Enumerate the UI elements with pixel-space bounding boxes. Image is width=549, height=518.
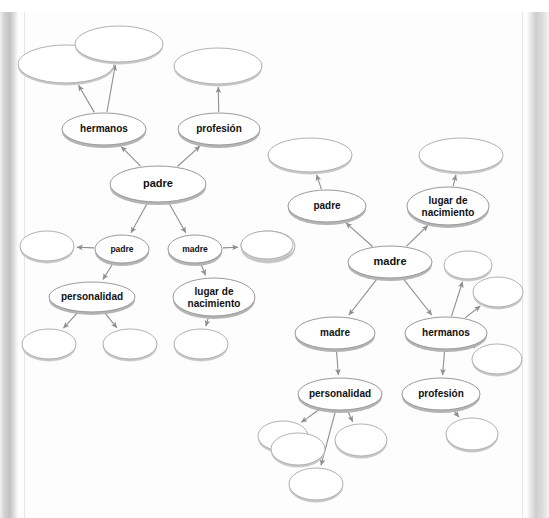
connector-arrow (349, 278, 378, 315)
connector-arrow (346, 223, 373, 247)
concept-node-lugar[interactable]: lugar denacimiento (173, 278, 255, 319)
connector-arrow (406, 226, 428, 247)
concept-node-blank[interactable] (241, 231, 293, 261)
concept-node-blank[interactable] (271, 433, 325, 467)
concept-node-madre[interactable]: madre (348, 246, 432, 281)
concept-node-blank[interactable] (103, 329, 157, 361)
concept-node-blank[interactable] (335, 424, 387, 458)
concept-node-blank[interactable] (20, 231, 74, 263)
node-layer: hermanosprofesiónpadrepadremadrepersonal… (18, 26, 523, 502)
node-ellipse[interactable] (473, 277, 523, 307)
connector-arrow (121, 147, 140, 167)
node-label: lugar denacimiento (188, 286, 241, 309)
concept-node-blank[interactable] (268, 138, 352, 174)
connector-arrow (336, 350, 338, 375)
concept-node-blank[interactable] (289, 468, 343, 502)
node-label: padre (313, 200, 341, 211)
concept-node-profesión[interactable]: profesión (178, 113, 260, 148)
concept-map-canvas: hermanosprofesiónpadrepadremadrepersonal… (0, 0, 549, 518)
connector-arrow (177, 146, 200, 166)
connector-arrow (77, 247, 94, 248)
node-ellipse[interactable] (444, 251, 492, 279)
connector-arrow (104, 312, 117, 327)
connector-arrow (453, 175, 456, 186)
node-ellipse[interactable] (20, 231, 74, 261)
node-ellipse[interactable] (75, 26, 163, 62)
node-ellipse[interactable] (335, 424, 387, 456)
concept-node-padre[interactable]: padre (110, 166, 206, 205)
node-ellipse[interactable] (241, 231, 293, 259)
node-ellipse[interactable] (472, 344, 522, 374)
connector-arrow (63, 312, 78, 328)
concept-node-blank[interactable] (472, 344, 522, 376)
node-ellipse[interactable] (268, 138, 352, 172)
concept-node-personalidad[interactable]: personalidad (49, 282, 135, 315)
concept-node-blank[interactable] (174, 329, 228, 361)
node-ellipse[interactable] (103, 329, 157, 359)
node-ellipse[interactable] (446, 418, 498, 450)
node-label: madre (373, 255, 406, 267)
node-label: hermanos (422, 327, 470, 338)
node-ellipse[interactable] (289, 468, 343, 500)
connector-arrow (403, 278, 432, 315)
concept-node-blank[interactable] (419, 138, 503, 174)
node-label: padre (143, 177, 173, 189)
node-label: personalidad (61, 291, 123, 302)
node-label: madre (182, 244, 208, 254)
node-label: lugar denacimiento (422, 195, 475, 218)
node-ellipse[interactable] (174, 48, 262, 84)
concept-node-hermanos[interactable]: hermanos (405, 317, 487, 352)
concept-node-blank[interactable] (22, 329, 76, 361)
node-label: madre (320, 327, 350, 338)
connector-arrow (301, 409, 319, 422)
worksheet-page: hermanosprofesiónpadrepadremadrepersonal… (0, 0, 549, 518)
concept-node-blank[interactable] (174, 48, 262, 86)
node-label: personalidad (309, 388, 371, 399)
connector-arrow (103, 263, 113, 279)
connector-arrow (452, 282, 463, 316)
connector-arrow (223, 247, 238, 248)
concept-node-blank[interactable] (444, 251, 492, 281)
concept-node-madre[interactable]: madre (168, 235, 222, 266)
node-ellipse[interactable] (174, 329, 228, 359)
concept-node-personalidad[interactable]: personalidad (298, 378, 382, 413)
connector-arrow (465, 306, 480, 318)
concept-node-padre[interactable]: padre (95, 235, 149, 266)
concept-node-blank[interactable] (75, 26, 163, 64)
concept-node-lugar[interactable]: lugar denacimiento (407, 187, 489, 228)
connector-arrow (79, 85, 95, 112)
concept-node-profesión[interactable]: profesión (402, 378, 480, 413)
node-label: hermanos (80, 123, 128, 134)
node-label: profesión (418, 388, 464, 399)
connector-arrow (131, 203, 148, 233)
node-label: profesión (196, 123, 242, 134)
node-ellipse[interactable] (271, 433, 325, 465)
connector-arrow (317, 175, 322, 189)
concept-node-blank[interactable] (473, 277, 523, 309)
connector-arrow (443, 350, 445, 375)
node-label: padre (110, 244, 133, 254)
connector-arrow (169, 203, 186, 233)
node-ellipse[interactable] (419, 138, 503, 172)
node-ellipse[interactable] (22, 329, 76, 359)
concept-node-madre[interactable]: madre (295, 317, 375, 352)
concept-node-padre[interactable]: padre (288, 190, 366, 225)
concept-node-blank[interactable] (446, 418, 498, 452)
concept-node-hermanos[interactable]: hermanos (62, 113, 146, 148)
